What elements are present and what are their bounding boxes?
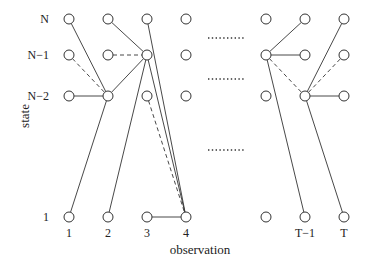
ellipsis-dots [208,38,244,150]
transition-edge-solid [307,101,343,212]
state-node [103,91,113,101]
transition-edge-dashed [72,59,104,93]
state-node [300,212,310,222]
state-node [103,212,113,222]
state-label: N [40,12,49,26]
transition-edge-solid [270,22,302,51]
state-node [261,212,271,222]
state-node [300,14,310,24]
state-node [300,50,310,60]
state-label: N−1 [28,48,49,62]
transition-edge-dashed [269,59,301,93]
transition-edge-solid [71,101,107,212]
state-node [181,50,191,60]
observation-label: T [340,226,348,240]
transition-edge-solid [109,60,146,212]
transition-edge-solid [112,22,144,51]
transition-edge-solid [111,59,143,93]
state-node [261,14,271,24]
state-node [339,14,349,24]
transition-edge-solid [307,23,341,91]
y-axis-label: state [17,104,32,128]
state-node [181,212,191,222]
state-node [339,50,349,60]
observation-label: 2 [105,226,111,240]
state-node [64,212,74,222]
transition-edge-solid [148,60,185,212]
state-node [142,50,152,60]
transition-edge-solid [267,60,304,212]
state-node [339,91,349,101]
state-node [142,14,152,24]
transition-edge-dashed [308,59,340,93]
state-node [261,50,271,60]
state-node [261,91,271,101]
trellis-nodes [64,14,349,222]
state-label: N−2 [28,89,49,103]
transition-edge-solid [148,24,185,212]
x-axis-label: observation [170,242,231,257]
state-node [64,91,74,101]
observation-label: T−1 [295,226,315,240]
state-node [64,50,74,60]
state-node [64,14,74,24]
state-node [103,14,113,24]
transition-edge-solid [71,23,105,91]
observation-label: 4 [183,226,189,240]
state-node [181,14,191,24]
observation-label: 3 [144,226,150,240]
state-node [103,50,113,60]
state-label: 1 [43,210,49,224]
state-node [181,91,191,101]
observation-label: 1 [66,226,72,240]
state-node [142,91,152,101]
observation-column-labels: 1234T−1T [66,226,348,240]
state-node [339,212,349,222]
state-node [300,91,310,101]
trellis-diagram: NN−1N−21 1234T−1T observation state [0,0,370,263]
state-node [142,212,152,222]
